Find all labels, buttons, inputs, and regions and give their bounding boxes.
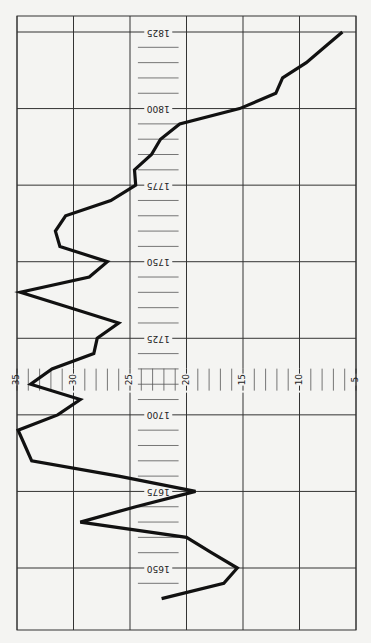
year-tick-label: 1700 — [147, 410, 170, 420]
year-tick-label: 1725 — [147, 334, 170, 344]
year-tick-label: 1650 — [147, 564, 170, 574]
value-tick-label: 5 — [351, 377, 361, 383]
value-tick-label: 10 — [294, 374, 304, 386]
year-tick-label: 1675 — [147, 487, 170, 497]
year-tick-label: 1800 — [147, 104, 170, 114]
year-tick-label: 1775 — [147, 181, 170, 191]
data-line — [18, 32, 342, 599]
year-tick-label: 1825 — [147, 28, 170, 38]
value-tick-label: 15 — [238, 374, 248, 385]
value-tick-label: 35 — [12, 374, 22, 385]
value-tick-label: 30 — [68, 374, 78, 386]
year-tick-label: 1750 — [147, 257, 170, 267]
value-tick-label: 25 — [125, 374, 135, 385]
rotated-line-chart: 1650167517001725175017751800182535302520… — [0, 0, 371, 643]
value-tick-label: 20 — [181, 374, 191, 386]
